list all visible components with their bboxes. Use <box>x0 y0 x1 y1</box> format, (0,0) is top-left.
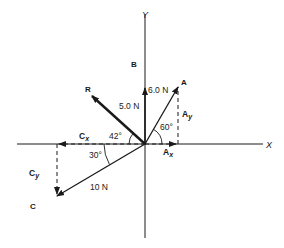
vector-diagram: Y X B A R C 6.0 N 5.0 N 10 N 60° 42° 30°… <box>0 0 284 248</box>
cy-label: Cy <box>29 168 40 180</box>
angle-r-label: 42° <box>109 131 122 141</box>
angle-c-label: 30° <box>89 150 102 160</box>
vector-r-label: R <box>85 85 91 94</box>
vector-a-label: A <box>181 78 187 87</box>
vector-c-label: C <box>30 202 36 211</box>
diagram-svg: Y X B A R C 6.0 N 5.0 N 10 N 60° 42° 30°… <box>0 0 284 248</box>
ax-label: Ax <box>163 147 174 158</box>
vector-b-magnitude: 5.0 N <box>119 101 139 111</box>
vector-b-label: B <box>131 60 137 69</box>
x-axis-label: X <box>265 140 273 150</box>
cx-label: Cx <box>79 131 90 142</box>
vector-a-magnitude: 6.0 N <box>148 85 168 95</box>
vector-c-magnitude: 10 N <box>90 182 108 192</box>
vector-a <box>145 87 178 144</box>
angle-arc-c <box>104 144 110 165</box>
y-axis-label: Y <box>142 10 149 20</box>
angle-arc-r <box>129 133 133 144</box>
angle-a-label: 60° <box>160 122 173 132</box>
ay-label: Ay <box>182 109 193 121</box>
